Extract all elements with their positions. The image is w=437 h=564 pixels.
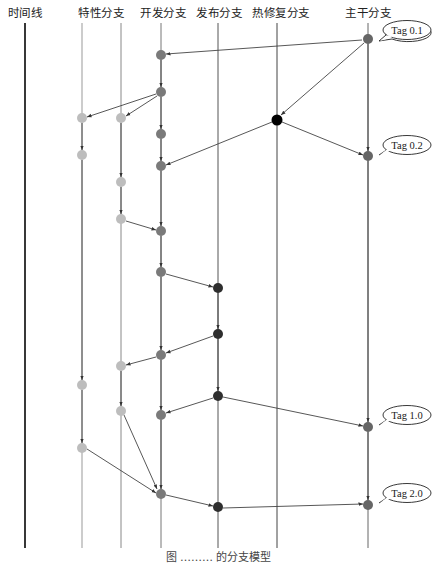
commit-node [213,329,223,339]
edge [126,221,156,230]
edge [166,398,213,413]
commit-node [77,113,87,123]
edge [124,415,157,489]
commit-node [156,87,166,97]
tag-callout-0-2: Tag 0.2 [379,136,431,156]
hotfix-commits [272,115,283,126]
commit-node [116,214,126,224]
tag-callout-1-0: Tag 1.0 [379,406,431,426]
lanes [25,23,368,548]
commit-node [363,34,373,44]
commit-node [156,226,166,236]
edge [223,397,363,426]
tag-label: Tag 2.0 [391,488,422,499]
commit-node [77,150,87,160]
commit-node [156,267,166,277]
edge [166,274,213,287]
edge [166,122,272,165]
edge [166,40,362,54]
tag-callout-0-1: Tag 0.1 [379,21,431,42]
commit-node [213,391,223,401]
edge [166,495,213,506]
commit-node [77,380,87,390]
edge [166,336,213,353]
edges [82,40,368,508]
commit-node [116,177,126,187]
commit-node [363,151,373,161]
commit-node [116,361,126,371]
commit-node [363,422,373,432]
commit-node [213,502,223,512]
tag-label: Tag 0.2 [391,140,422,151]
commit-node [156,161,166,171]
tag-label: Tag 1.0 [391,410,422,421]
edge [126,357,156,365]
edge [282,122,363,155]
commit-node [156,129,166,139]
commit-node [156,50,166,60]
feature-commits [77,113,126,453]
commit-node [116,406,126,416]
commit-node [213,283,223,293]
edge [281,43,364,115]
figure-caption: 图 ……… 的分支模型 [0,548,437,564]
commit-node [363,500,373,510]
commit-node [272,115,283,126]
commit-node [156,410,166,420]
commit-node [156,350,166,360]
tag-callout-2-0: Tag 2.0 [379,484,431,504]
commit-node [156,489,166,499]
tag-label: Tag 0.1 [391,25,422,36]
edge [223,504,363,508]
commit-node [77,443,87,453]
commit-node [116,113,126,123]
